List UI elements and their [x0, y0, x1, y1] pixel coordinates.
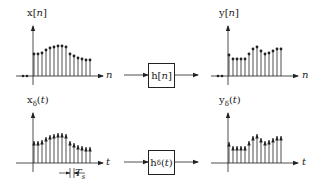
x-n-plot-stem-dot — [81, 58, 84, 61]
x-n-plot-zero-sample-dot — [22, 75, 25, 78]
system-box-h-delta: hδ(t) — [148, 150, 175, 175]
x-n-plot-stem-dot — [53, 46, 56, 49]
x-n-plot-stem-dot — [41, 52, 44, 55]
y-n-plot-stem-dot — [244, 58, 247, 61]
x-n-plot-stem-dot — [57, 45, 60, 48]
y-n-plot-stem-dot — [252, 48, 255, 51]
x-n-label: x[n] — [27, 8, 47, 18]
y-delta-label: yδ(t) — [219, 95, 241, 108]
x-n-plot-stem-dot — [33, 53, 36, 56]
x-n-plot-stem-dot — [65, 46, 68, 49]
x-n-plot-stem-dot — [69, 53, 72, 56]
x-n-plot-stem-dot — [37, 53, 40, 56]
x-n-plot-zero-sample-dot — [26, 75, 29, 78]
x-n-plot-stem-dot — [73, 55, 76, 58]
y-n-plot-stem-dot — [228, 54, 231, 57]
y-n-plot-stem-dot — [256, 46, 259, 49]
y-n-plot-zero-sample-dot — [221, 75, 224, 78]
system-box-h-n: h[n] — [148, 63, 175, 88]
t-axis-label-right: t — [302, 157, 306, 167]
y-n-plot-stem-dot — [272, 50, 275, 53]
y-n-plot-stem-dot — [240, 58, 243, 61]
y-n-plot-stem-dot — [264, 53, 267, 56]
y-n-plot-stem-dot — [232, 58, 235, 61]
x-n-plot-stem-dot — [49, 47, 52, 50]
y-n-plot-zero-sample-dot — [217, 75, 220, 78]
x-n-plot-stem-dot — [89, 59, 92, 62]
x-n-plot-stem-dot — [45, 49, 48, 52]
y-n-plot-stem-dot — [268, 52, 271, 55]
x-delta-label: xδ(t) — [27, 95, 49, 108]
y-n-plot-stem-dot — [260, 50, 263, 53]
n-axis-label-left: n — [106, 70, 112, 80]
y-n-plot-stem-dot — [280, 48, 283, 51]
x-n-plot-stem-dot — [61, 45, 64, 48]
t-axis-label-left: t — [106, 157, 110, 167]
x-n-plot-stem-dot — [77, 57, 80, 60]
sampling-period-label: Ts — [75, 168, 85, 181]
x-n-plot-stem-dot — [85, 59, 88, 62]
n-axis-label-right: n — [302, 70, 308, 80]
y-n-plot-stem-dot — [236, 58, 239, 61]
y-n-plot-stem-dot — [276, 48, 279, 51]
y-n-label: y[n] — [219, 8, 239, 18]
y-n-plot-stem-dot — [248, 53, 251, 56]
